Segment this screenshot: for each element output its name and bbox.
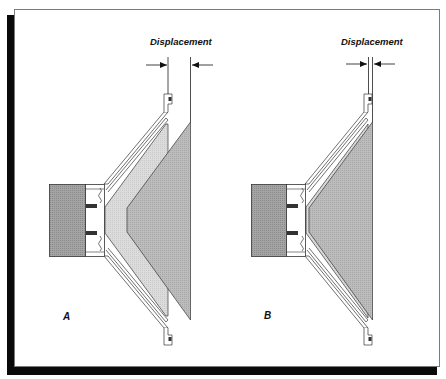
mount-bracket-top-a (164, 94, 172, 112)
speaker-diagram: Displacement A (0, 0, 446, 379)
speaker-b: Displacement B (252, 36, 404, 345)
mount-bracket-top-b (364, 94, 372, 112)
pole-gap-b (287, 185, 306, 257)
cone-displaced-b (309, 122, 373, 320)
voice-coil-lower-a (86, 231, 97, 235)
panel-label-a: A (62, 311, 70, 322)
mount-bracket-bottom-a (164, 328, 172, 345)
voice-coil-upper-a (86, 204, 97, 208)
panel-label-b: B (264, 310, 271, 321)
voice-coil-lower-b (287, 231, 298, 235)
mount-bracket-bottom-b (364, 328, 372, 345)
magnet-a (50, 185, 86, 257)
speaker-a: Displacement A (50, 36, 214, 345)
voice-coil-upper-b (287, 204, 298, 208)
displacement-label-b: Displacement (341, 36, 404, 47)
magnet-b (252, 185, 287, 257)
pole-gap-a (86, 185, 105, 257)
displacement-label-a: Displacement (150, 36, 213, 47)
